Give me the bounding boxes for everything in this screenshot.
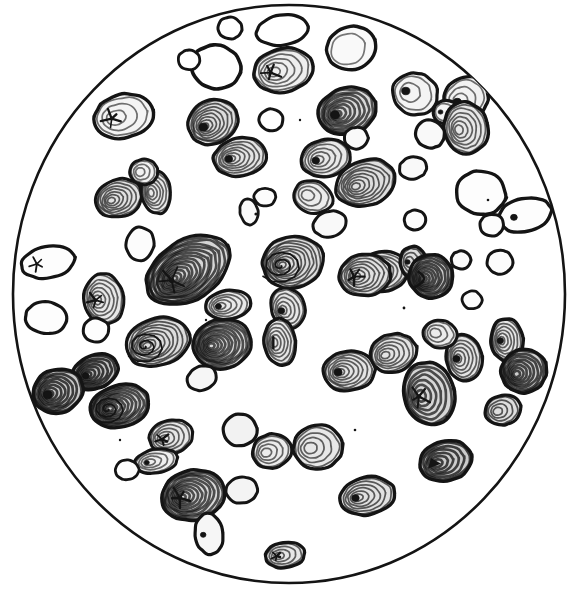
starch-grain xyxy=(339,254,391,295)
starch-grain xyxy=(313,211,346,238)
starch-grain xyxy=(83,274,124,325)
starch-grain xyxy=(162,470,225,521)
starch-grain xyxy=(400,157,427,179)
grain-hilum-dot xyxy=(200,532,206,537)
starch-grain xyxy=(423,320,457,348)
debris-speck xyxy=(254,212,257,215)
debris-speck xyxy=(299,119,301,121)
grain-hilum-dot xyxy=(43,391,52,399)
grain-hilum-dot xyxy=(402,87,410,94)
starch-grain xyxy=(264,318,296,365)
starch-grain xyxy=(126,227,154,261)
debris-speck xyxy=(354,429,357,432)
starch-grain xyxy=(420,441,472,482)
grain-hilum-core xyxy=(416,394,421,398)
grain-hilum-core xyxy=(160,438,163,441)
grain-hilum-dot xyxy=(199,123,208,131)
starch-grain xyxy=(485,395,521,425)
grain-hilum-dot xyxy=(334,369,342,376)
grain-hilum-dot xyxy=(82,373,89,379)
starch-grain xyxy=(206,290,251,320)
grain-hilum-dot xyxy=(330,111,339,119)
debris-speck xyxy=(119,439,121,441)
starch-grain xyxy=(187,366,216,391)
starch-grain xyxy=(25,302,66,334)
starch-grain xyxy=(451,251,471,269)
starch-grain xyxy=(253,434,292,469)
grain-hilum-dot xyxy=(453,356,460,362)
debris-speck xyxy=(487,199,490,202)
starch-grain xyxy=(265,542,304,568)
starch-grain xyxy=(409,255,453,299)
debris-speck xyxy=(403,307,406,310)
figure-root xyxy=(0,0,574,594)
starch-grain xyxy=(94,93,154,138)
microscope-plate xyxy=(0,0,574,594)
starch-grain xyxy=(130,159,158,185)
grain-hilum-dot xyxy=(278,308,285,314)
starch-grain xyxy=(218,17,242,39)
grain-hilum-dot xyxy=(225,156,233,163)
starch-grain xyxy=(192,45,242,89)
grain-hilum-dot xyxy=(352,495,360,502)
starch-grain xyxy=(178,50,199,70)
starch-grain xyxy=(254,188,276,205)
grain-hilum-dot xyxy=(438,110,443,114)
starch-grain xyxy=(326,26,375,70)
grain-hilum-dot xyxy=(145,460,150,464)
starch-grain xyxy=(480,214,504,236)
starch-grain xyxy=(393,73,438,115)
starch-grain xyxy=(344,127,368,149)
starch-grain xyxy=(462,291,482,309)
starch-grain xyxy=(457,171,507,214)
starch-grain xyxy=(262,236,323,289)
starch-grain xyxy=(259,109,283,131)
starch-grain xyxy=(501,349,547,393)
starch-grain xyxy=(223,414,257,446)
grain-hilum-core xyxy=(177,496,182,500)
starch-grain xyxy=(193,320,252,370)
starch-grain xyxy=(487,250,513,274)
grain-hilum-core xyxy=(94,298,98,302)
starch-grain xyxy=(293,425,343,469)
starch-grain xyxy=(404,362,455,424)
grain-hilum-core xyxy=(352,275,356,279)
debris-speck xyxy=(205,319,207,321)
starch-grain xyxy=(83,318,108,342)
starch-grain xyxy=(323,351,376,391)
grain-hilum-dot xyxy=(497,338,503,344)
starch-grain xyxy=(115,460,139,480)
grain-hilum-dot xyxy=(215,304,221,309)
grain-hilum-dot xyxy=(312,157,320,164)
debris-speck xyxy=(445,415,448,418)
grain-hilum-dot xyxy=(405,260,410,265)
grain-hilum-core xyxy=(169,278,175,283)
starch-grain xyxy=(416,120,445,148)
starch-grain xyxy=(404,210,426,230)
starch-grain xyxy=(443,102,488,154)
grain-hilum-core xyxy=(110,117,114,121)
starch-grain xyxy=(226,477,258,503)
grain-hilum-core xyxy=(269,71,273,75)
grain-hilum-dot xyxy=(511,214,518,220)
grain-hilum-core xyxy=(35,263,38,266)
starch-grain xyxy=(195,513,223,554)
grain-hilum-core xyxy=(275,555,277,557)
